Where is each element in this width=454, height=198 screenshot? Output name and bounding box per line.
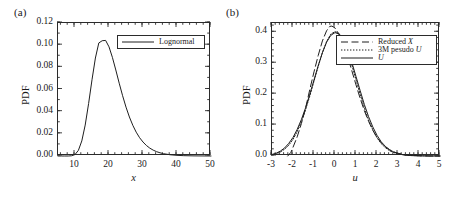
legend-item: U — [340, 54, 433, 62]
panel-b: (b) PDF 0.00.10.20.30.4 -3-2-1012345 u R… — [227, 0, 454, 198]
x-tick-label: 50 — [195, 159, 225, 169]
legend-line-sample — [121, 38, 155, 46]
y-tick-label: 0.12 — [13, 16, 53, 26]
y-tick-label: 0.00 — [13, 149, 53, 159]
y-tick-label: 0.2 — [227, 87, 267, 97]
legend-label: U — [378, 54, 384, 62]
legend-line-sample — [340, 46, 374, 54]
figure-container: (a) PDF 0.000.020.040.060.080.100.12 102… — [0, 0, 454, 198]
y-tick-label: 0.0 — [227, 149, 267, 159]
y-tick-label: 0.06 — [13, 83, 53, 93]
panel-a-x-axis-label: x — [57, 172, 210, 183]
legend-item: Lognormal — [121, 38, 201, 46]
y-tick-label: 0.08 — [13, 60, 53, 70]
y-tick-label: 0.4 — [227, 25, 267, 35]
y-tick-label: 0.02 — [13, 127, 53, 137]
panel-b-legend: Reduced X3M pesudo UU — [336, 35, 437, 65]
panel-a: (a) PDF 0.000.020.040.060.080.100.12 102… — [0, 0, 227, 198]
panel-b-x-axis-label: u — [271, 172, 439, 183]
legend-label: Lognormal — [159, 38, 195, 46]
x-tick-label: 5 — [424, 159, 454, 169]
legend-label: 3M pesudo U — [378, 46, 422, 54]
x-tick-label: 20 — [93, 159, 123, 169]
x-tick-label: 40 — [161, 159, 191, 169]
x-tick-label: 10 — [59, 159, 89, 169]
y-tick-label: 0.3 — [227, 56, 267, 66]
legend-line-sample — [340, 54, 374, 62]
y-tick-label: 0.04 — [13, 105, 53, 115]
legend-item: 3M pesudo U — [340, 46, 433, 54]
y-tick-label: 0.10 — [13, 38, 53, 48]
x-tick-label: 30 — [127, 159, 157, 169]
legend-line-sample — [340, 38, 374, 46]
panel-a-legend: Lognormal — [117, 35, 205, 49]
y-tick-label: 0.1 — [227, 118, 267, 128]
